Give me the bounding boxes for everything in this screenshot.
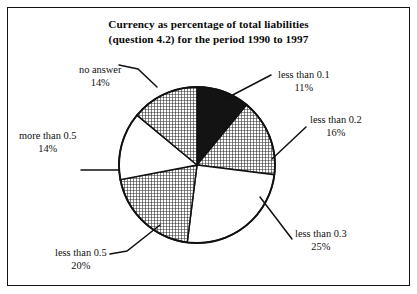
pie-label-less-than-0-3: less than 0.3 25% <box>295 228 347 253</box>
pie-label-no-answer-name: no answer <box>79 64 121 77</box>
pie-label-less-than-0-2: less than 0.2 16% <box>310 114 362 139</box>
pie-label-more-than-0-5-name: more than 0.5 <box>19 130 76 143</box>
pie-label-less-than-0-1-value: 11% <box>278 82 330 95</box>
pie-label-less-than-0-1: less than 0.1 11% <box>278 69 330 94</box>
pie-label-less-than-0-5-name: less than 0.5 <box>55 247 107 260</box>
pie-label-less-than-0-3-value: 25% <box>295 241 347 254</box>
pie-label-less-than-0-1-name: less than 0.1 <box>278 69 330 82</box>
pie-label-less-than-0-5-value: 20% <box>55 260 107 273</box>
pie-chart: no answer 14% less than 0.1 11% less tha… <box>7 7 410 286</box>
pie-slice-less-than-0-3 <box>187 165 274 243</box>
pie-label-less-than-0-5: less than 0.5 20% <box>55 247 107 272</box>
leader-line-less-than-0-1 <box>225 75 271 99</box>
leader-line-less-than-0-2 <box>272 127 306 159</box>
leader-line-no-answer <box>119 65 157 87</box>
pie-label-no-answer-value: 14% <box>79 77 121 90</box>
leader-line-less-than-0-3 <box>260 197 292 239</box>
pie-label-more-than-0-5: more than 0.5 14% <box>19 130 76 155</box>
pie-label-less-than-0-2-name: less than 0.2 <box>310 114 362 127</box>
figure: Currency as percentage of total liabilit… <box>0 0 417 294</box>
pie-label-less-than-0-2-value: 16% <box>310 127 362 140</box>
pie-label-more-than-0-5-value: 14% <box>19 143 76 156</box>
pie-label-less-than-0-3-name: less than 0.3 <box>295 228 347 241</box>
pie-label-no-answer: no answer 14% <box>79 64 121 89</box>
